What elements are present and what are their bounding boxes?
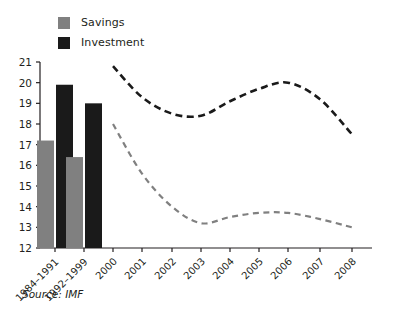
y-axis-tick-label: 18 (16, 118, 32, 130)
y-axis-tick-label: 13 (16, 221, 32, 233)
line-savings (113, 124, 352, 227)
line-investment (113, 66, 352, 134)
y-axis-tick-label: 17 (16, 139, 32, 151)
source-note: Source: IMF (22, 288, 83, 300)
y-axis-tick-label: 21 (16, 56, 32, 68)
savings-investment-chart: Savings Investment 12131415161718192021 … (0, 0, 399, 314)
bar-investment (85, 103, 102, 248)
y-axis-tick-label: 16 (16, 159, 32, 171)
y-axis-tick-label: 20 (16, 77, 32, 89)
bar-savings (66, 157, 83, 248)
y-axis-tick-label: 12 (16, 242, 32, 254)
bar-savings (37, 141, 54, 248)
y-axis-tick-label: 19 (16, 97, 32, 109)
y-axis-tick-label: 15 (16, 180, 32, 192)
y-axis-tick-label: 14 (16, 201, 32, 213)
